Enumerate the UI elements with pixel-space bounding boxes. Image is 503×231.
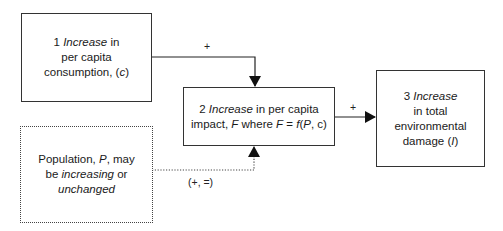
edge-label-plus-2: + — [350, 101, 356, 113]
text: per capita — [61, 51, 112, 63]
emphasis: Increase — [63, 36, 107, 48]
text: , c) — [311, 118, 327, 130]
node-number: 1 — [54, 36, 64, 48]
node-population-text: Population, P, may be increasing or unch… — [38, 152, 135, 197]
text: in total — [414, 105, 448, 117]
text: in per capita — [253, 103, 319, 115]
node-number: 3 — [404, 90, 414, 102]
text: or — [114, 168, 127, 180]
variable-P: P — [303, 118, 311, 130]
edge-label-plus-1: + — [204, 40, 210, 52]
node-impact-text: 2 Increase in per capita impact, F where… — [191, 102, 327, 132]
text: be — [46, 168, 62, 180]
node-consumption-text: 1 Increase in per capita consumption, (c… — [44, 35, 129, 80]
emphasis: unchanged — [58, 183, 115, 195]
node-consumption: 1 Increase in per capita consumption, (c… — [21, 13, 152, 102]
text: where — [238, 118, 276, 130]
node-population: Population, P, may be increasing or unch… — [20, 126, 153, 223]
edge-label-plus-equals: (+, =) — [188, 176, 213, 188]
text: ) — [454, 135, 458, 147]
node-number: 2 — [199, 103, 209, 115]
text: impact, — [191, 118, 231, 130]
text: damage ( — [403, 135, 452, 147]
emphasis: increasing — [62, 168, 114, 180]
text: = — [283, 118, 296, 130]
text: consumption, ( — [44, 66, 119, 78]
node-damage-text: 3 Increase in total environmental damage… — [394, 89, 466, 149]
edge-population-to-impact — [152, 147, 254, 170]
text: environmental — [394, 120, 466, 132]
text: ) — [125, 66, 129, 78]
node-damage: 3 Increase in total environmental damage… — [376, 70, 485, 167]
text: Population, — [38, 153, 99, 165]
edge-consumption-to-impact — [151, 57, 255, 86]
text: , may — [107, 153, 135, 165]
emphasis: Increase — [413, 90, 457, 102]
variable-P: P — [99, 153, 107, 165]
node-impact: 2 Increase in per capita impact, F where… — [183, 87, 335, 146]
text: in — [107, 36, 119, 48]
emphasis: Increase — [209, 103, 253, 115]
